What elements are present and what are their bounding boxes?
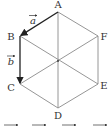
vertex-label-c: C — [7, 82, 15, 93]
vertex-label-a: A — [53, 0, 62, 10]
vertex-label-b: B — [7, 31, 14, 42]
vertex-label-e: E — [100, 80, 107, 91]
vector-a-label: a — [29, 15, 37, 26]
vector-a-text: a — [30, 15, 36, 26]
hexagon-diagram: A B C D E F a b — [0, 0, 112, 126]
vertex-label-d: D — [54, 110, 62, 121]
edge-a-f — [58, 12, 98, 36]
vector-a-arrow — [21, 12, 58, 35]
center-point — [57, 60, 59, 62]
vector-b-label: b — [7, 56, 15, 67]
vector-b-text: b — [8, 56, 14, 67]
edge-d-c — [20, 84, 58, 108]
edge-e-d — [58, 84, 98, 108]
hexagon-diagonals — [20, 12, 98, 108]
vertex-label-f: F — [101, 31, 108, 42]
